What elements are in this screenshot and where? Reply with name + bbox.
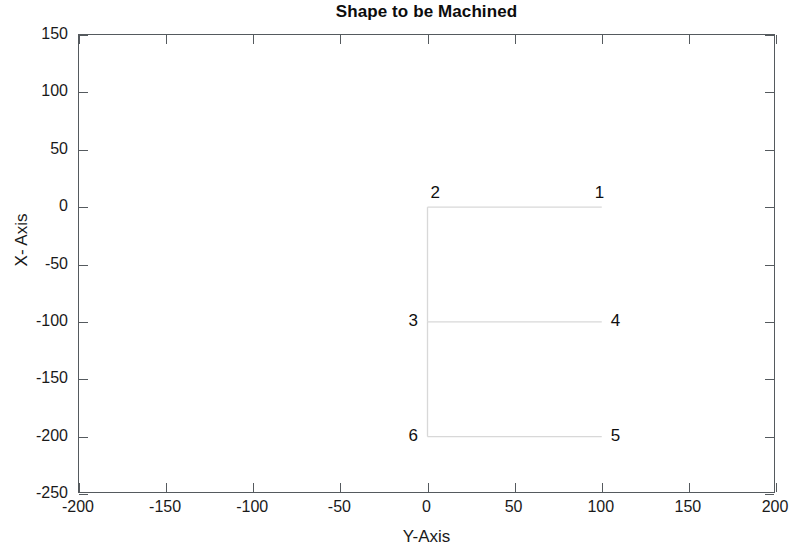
y-axis-tick-label: 150: [8, 26, 68, 42]
x-axis-tick: [515, 483, 516, 492]
y-axis-tick: [79, 150, 88, 151]
x-axis-tick: [79, 35, 80, 44]
x-axis-tick-label: -50: [299, 499, 379, 515]
x-axis-tick: [689, 35, 690, 44]
y-axis-tick: [79, 322, 88, 323]
x-axis-tick-label: 150: [648, 499, 728, 515]
x-axis-tick-label: -200: [38, 499, 118, 515]
x-axis-title: Y-Axis: [78, 527, 775, 547]
x-axis-tick: [340, 483, 341, 492]
point-label-1: 1: [595, 184, 604, 201]
point-label-3: 3: [409, 312, 418, 329]
profile-polyline: [79, 35, 776, 494]
x-axis-tick-label: 0: [387, 499, 467, 515]
x-axis-tick: [428, 483, 429, 492]
y-axis-tick: [765, 437, 774, 438]
y-axis-tick: [765, 92, 774, 93]
y-axis-tick-label: -250: [8, 485, 68, 501]
y-axis-tick: [765, 322, 774, 323]
y-axis-tick: [765, 207, 774, 208]
figure-canvas: Shape to be Machined X- Axis Y-Axis -200…: [0, 0, 791, 556]
y-axis-tick: [79, 437, 88, 438]
y-axis-tick-label: 50: [8, 141, 68, 157]
y-axis-tick-label: -150: [8, 370, 68, 386]
x-axis-tick: [340, 35, 341, 44]
x-axis-tick: [166, 35, 167, 44]
y-axis-tick-label: -50: [8, 256, 68, 272]
chart-title: Shape to be Machined: [78, 2, 775, 22]
y-axis-tick: [765, 150, 774, 151]
point-label-5: 5: [611, 427, 620, 444]
plot-area: [78, 34, 775, 493]
y-axis-tick: [765, 35, 774, 36]
x-axis-tick: [776, 483, 777, 492]
y-axis-tick: [765, 379, 774, 380]
x-axis-tick: [689, 483, 690, 492]
x-axis-tick-label: 200: [735, 499, 791, 515]
y-axis-tick-label: 0: [8, 198, 68, 214]
y-axis-tick-label: 100: [8, 83, 68, 99]
x-axis-tick: [253, 35, 254, 44]
x-axis-tick: [602, 483, 603, 492]
y-axis-tick-label: -100: [8, 313, 68, 329]
x-axis-tick: [428, 35, 429, 44]
x-axis-tick: [79, 483, 80, 492]
x-axis-tick-label: 100: [561, 499, 641, 515]
y-axis-tick: [79, 265, 88, 266]
y-axis-tick: [79, 494, 88, 495]
x-axis-tick: [602, 35, 603, 44]
x-axis-tick: [515, 35, 516, 44]
point-label-4: 4: [611, 312, 620, 329]
point-label-2: 2: [431, 184, 440, 201]
y-axis-tick: [79, 379, 88, 380]
y-axis-tick: [765, 494, 774, 495]
x-axis-tick: [166, 483, 167, 492]
x-axis-tick-label: 50: [474, 499, 554, 515]
y-axis-tick: [765, 265, 774, 266]
y-axis-title: X- Axis: [12, 140, 32, 340]
y-axis-tick: [79, 207, 88, 208]
y-axis-tick: [79, 92, 88, 93]
x-axis-tick-label: -100: [212, 499, 292, 515]
y-axis-tick-label: -200: [8, 428, 68, 444]
y-axis-tick: [79, 35, 88, 36]
x-axis-tick: [253, 483, 254, 492]
point-label-6: 6: [409, 427, 418, 444]
x-axis-tick-label: -150: [125, 499, 205, 515]
x-axis-tick: [776, 35, 777, 44]
